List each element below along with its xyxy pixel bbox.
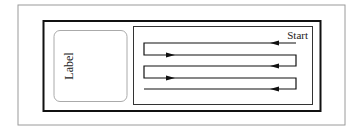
arrow-left-icon	[270, 87, 279, 92]
start-label: Start	[287, 29, 308, 41]
diagram-canvas: Label Start	[0, 0, 363, 137]
arrow-right-icon	[166, 76, 175, 81]
arrow-right-icon	[166, 53, 175, 58]
arrow-left-icon	[270, 64, 279, 69]
label-text: Label	[62, 52, 76, 80]
arrow-left-icon	[270, 41, 279, 46]
